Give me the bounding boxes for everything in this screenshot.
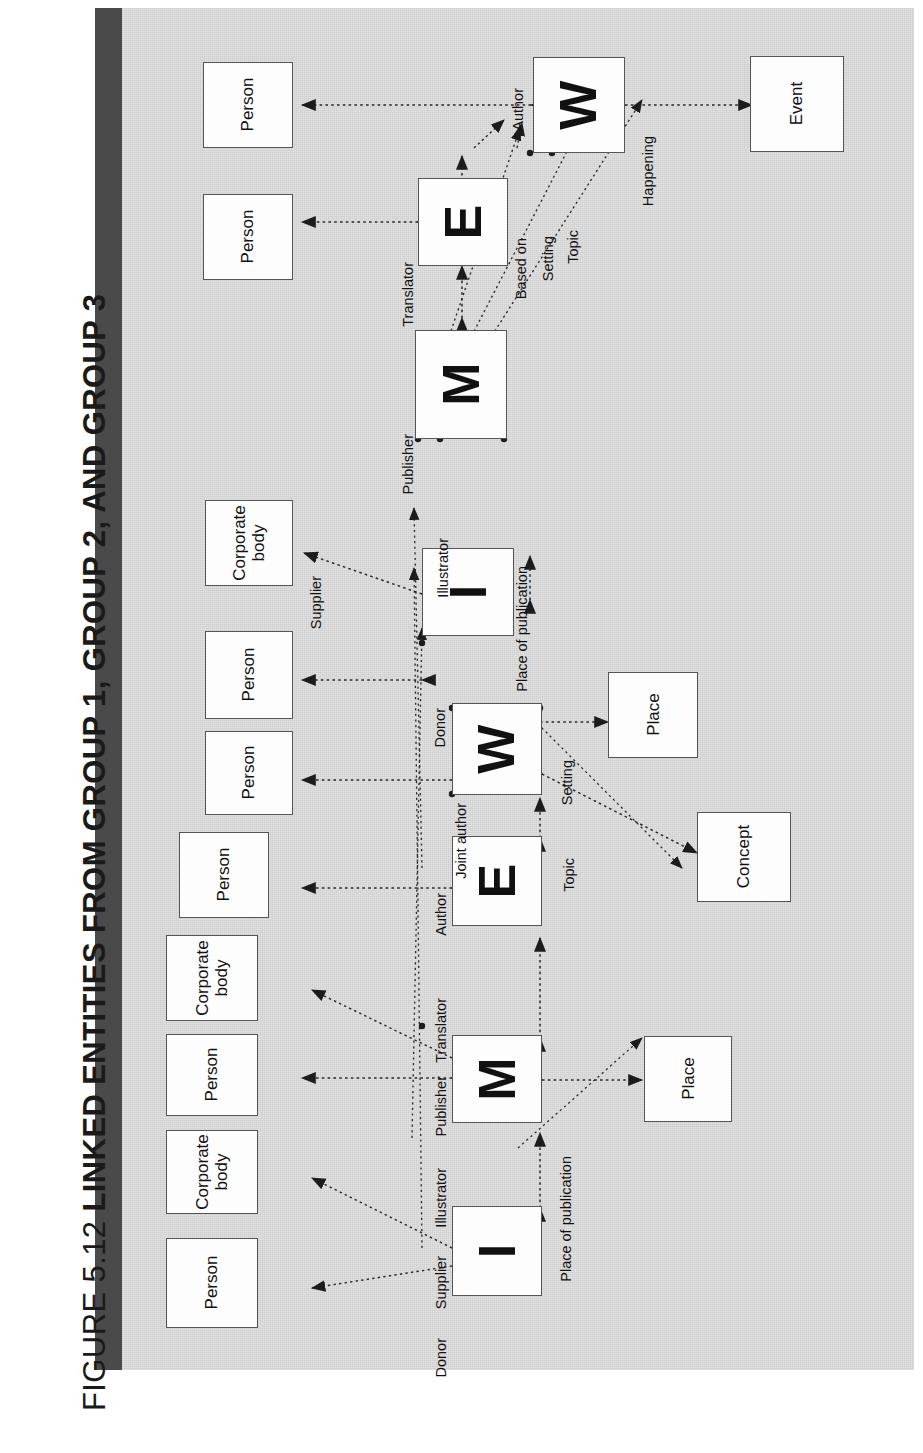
node-label: Person [202, 1048, 221, 1102]
edge-label-happening: Happening [640, 136, 656, 206]
figure-number: FIGURE 5.12 [77, 1221, 113, 1411]
edge-label-author-g1: Author [510, 88, 526, 131]
node-g3-item[interactable]: I [452, 1206, 542, 1296]
figure-page: FIGURE 5.12 LINKED ENTITIES FROM GROUP 1… [0, 0, 923, 1453]
edge-label-translator-g1: Translator [400, 262, 416, 327]
node-g1-manifestation[interactable]: M [415, 330, 507, 439]
edge-label-author-g2: Author [433, 893, 449, 936]
node-g2-person-b[interactable]: Person [205, 731, 293, 815]
node-label: Person [202, 1256, 221, 1310]
node-g1-expression[interactable]: E [418, 178, 508, 266]
node-label: Person [239, 648, 258, 702]
edge-label-place-of-publication-g3: Place of publication [558, 1156, 574, 1282]
node-label: E [434, 205, 492, 240]
figure-title: FIGURE 5.12 LINKED ENTITIES FROM GROUP 1… [69, 21, 121, 1411]
node-g3-corporate-body-a[interactable]: Corporate body [166, 935, 258, 1021]
node-label: Concept [734, 825, 753, 888]
node-label: Person [214, 848, 233, 902]
edge-label-place-of-publication-g1: Place of publication [514, 566, 530, 692]
node-label: Place [678, 1058, 697, 1101]
node-label: Corporate body [230, 505, 268, 581]
node-label: Person [239, 746, 258, 800]
edge-label-donor-g2: Donor [432, 708, 448, 748]
node-g2-place[interactable]: Place [608, 672, 698, 758]
node-label: I [468, 1244, 526, 1258]
diagram-panel: Person Person W E M Event Corporate body… [122, 8, 914, 1370]
edge-label-donor-g3: Donor [433, 1338, 449, 1378]
node-g3-person-b[interactable]: Person [166, 1238, 258, 1328]
node-g1-event[interactable]: Event [750, 56, 844, 152]
edge-label-publisher-g1: Publisher [400, 434, 416, 494]
node-label: M [432, 363, 490, 406]
node-label: Event [787, 82, 806, 125]
node-label: W [550, 80, 608, 129]
edge-label-illustrator-g3: Illustrator [433, 1168, 449, 1228]
edge-label-supplier-g2: Supplier [308, 576, 324, 629]
node-label: Place [643, 694, 662, 737]
node-label: E [468, 864, 526, 899]
figure-title-text: LINKED ENTITIES FROM GROUP 1, GROUP 2, A… [77, 294, 113, 1212]
node-g2-corporate-body-a[interactable]: Corporate body [205, 500, 293, 586]
node-g1-person-b[interactable]: Person [203, 194, 293, 280]
node-g3-person-a[interactable]: Person [166, 1034, 258, 1116]
node-g3-corporate-body-b[interactable]: Corporate body [166, 1130, 258, 1214]
node-g2-person-a[interactable]: Person [205, 631, 293, 719]
node-g3-manifestation[interactable]: M [452, 1035, 542, 1123]
node-label: Person [238, 210, 257, 264]
node-label: Person [238, 78, 257, 132]
node-g3-place[interactable]: Place [644, 1036, 732, 1122]
node-g2-work[interactable]: W [452, 703, 542, 795]
node-label: W [468, 724, 526, 773]
edge-label-setting-g1: Setting [540, 236, 556, 281]
edge-label-topic-g1: Topic [565, 230, 581, 264]
node-g2-person-c[interactable]: Person [179, 832, 269, 918]
edge-label-topic-g2: Topic [561, 858, 577, 892]
node-g2-concept[interactable]: Concept [697, 812, 791, 902]
node-label: Corporate body [193, 940, 231, 1016]
edge-label-supplier-g3: Supplier [433, 1256, 449, 1309]
edge-label-translator-g3: Translator [433, 998, 449, 1063]
edge-label-joint-author: Joint author [453, 803, 469, 879]
node-g1-person-a[interactable]: Person [203, 62, 293, 148]
node-label: Corporate body [193, 1134, 231, 1210]
edge-label-based-on: Based on [513, 238, 529, 299]
node-g1-work[interactable]: W [533, 57, 625, 153]
edge-label-illustrator-g1: Illustrator [435, 538, 451, 598]
node-label: M [468, 1057, 526, 1100]
edge-label-publisher-g3: Publisher [433, 1076, 449, 1136]
edge-label-setting-g2: Setting [559, 760, 575, 805]
